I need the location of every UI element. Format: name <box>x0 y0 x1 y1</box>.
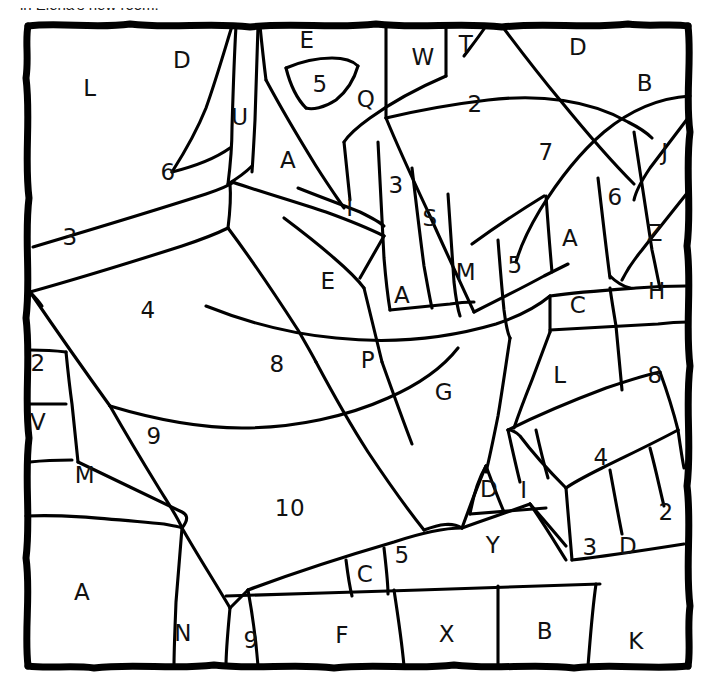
cell-label-c24: M <box>456 261 476 284</box>
cell-label-c43: 2 <box>658 501 673 524</box>
cell-label-c47: 5 <box>394 544 409 567</box>
cell-label-c15: A <box>280 149 296 172</box>
cell-label-c55: K <box>628 630 644 653</box>
cell-label-c20: Z <box>647 222 663 245</box>
cell-label-c02: D <box>173 49 191 72</box>
cell-label-c33: L <box>553 364 566 387</box>
cell-label-c54: B <box>537 620 553 643</box>
cell-label-c41: I <box>520 479 527 502</box>
cell-label-c44: Y <box>486 534 501 557</box>
cell-label-c27: C <box>570 294 587 317</box>
cell-label-c06: Q <box>357 88 376 111</box>
cell-label-c45: 3 <box>582 536 597 559</box>
cell-label-c31: 8 <box>269 353 284 376</box>
cell-label-c25: 5 <box>507 254 522 277</box>
cell-label-c34: 8 <box>647 364 662 387</box>
cell-label-c18: I <box>346 197 353 220</box>
cell-label-c48: C <box>357 563 374 586</box>
cell-label-c37: 9 <box>146 425 161 448</box>
cell-label-c46: D <box>619 535 637 558</box>
cell-label-c13: J <box>661 141 668 164</box>
cell-label-c39: M <box>75 464 95 487</box>
cell-label-c04: E <box>299 29 314 52</box>
cell-label-c05: 5 <box>312 73 327 96</box>
cell-label-c10: B <box>637 72 653 95</box>
cell-label-c09: D <box>569 36 587 59</box>
cell-label-c26: A <box>394 284 410 307</box>
cell-label-c14: 6 <box>160 161 175 184</box>
cell-label-c12: 7 <box>538 141 553 164</box>
cell-label-c36: V <box>30 411 46 434</box>
cell-label-c35: G <box>435 381 453 404</box>
cell-label-c52: F <box>335 624 349 647</box>
cell-label-c16: 3 <box>388 174 403 197</box>
puzzle-page: in Elena's new room. <box>0 0 710 691</box>
cell-label-c01: L <box>83 77 96 100</box>
cell-label-c23: E <box>320 270 335 293</box>
cell-label-c30: 2 <box>30 352 45 375</box>
cell-label-c51: 9 <box>243 629 258 652</box>
cell-label-c21: 3 <box>62 226 77 249</box>
cell-label-c17: 6 <box>607 186 622 209</box>
cell-label-c19: S <box>422 207 437 230</box>
cell-label-c40: D <box>480 478 498 501</box>
cell-label-c50: N <box>174 622 192 645</box>
cell-label-c32: P <box>361 349 375 372</box>
cell-label-c07: W <box>411 46 434 69</box>
cell-label-c38: 4 <box>593 446 608 469</box>
cell-label-c22: A <box>562 227 578 250</box>
cell-label-c42: 10 <box>275 497 305 520</box>
cell-label-c28: H <box>648 280 666 303</box>
cell-label-c11: 2 <box>467 93 482 116</box>
cell-label-c53: X <box>439 623 455 646</box>
puzzle-artwork <box>0 0 710 691</box>
cell-label-c29: 4 <box>140 299 155 322</box>
cell-label-c49: A <box>74 581 90 604</box>
cell-label-c08: T <box>459 33 474 56</box>
cell-label-c03: U <box>231 106 248 129</box>
